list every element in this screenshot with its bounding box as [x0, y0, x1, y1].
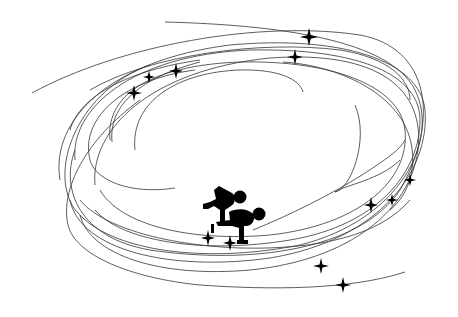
illustration-canvas: Speed skating illustration — [0, 0, 458, 317]
speed-skaters-icon — [0, 0, 458, 317]
